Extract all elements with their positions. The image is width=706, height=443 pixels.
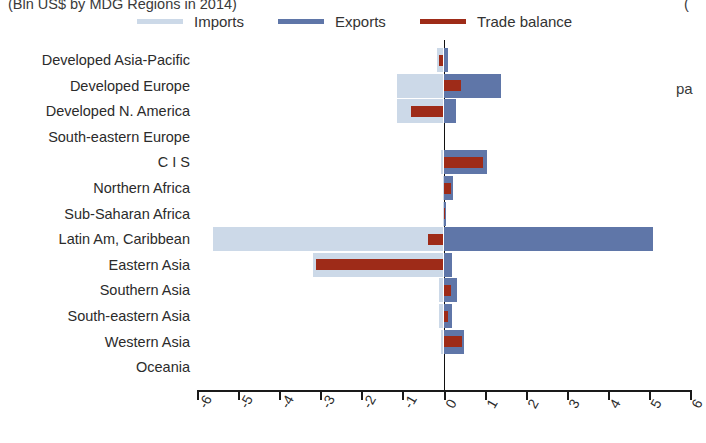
y-axis-label: South-eastern Asia <box>67 309 190 324</box>
plot-area <box>197 46 690 390</box>
x-axis-tick-label: 4 <box>606 396 624 411</box>
bar-trade-balance <box>444 336 462 347</box>
legend-item-imports[interactable]: Imports <box>137 13 244 30</box>
bar-group <box>197 125 690 149</box>
bar-group <box>197 355 690 379</box>
y-axis-label: Sub-Saharan Africa <box>64 207 190 222</box>
bar-trade-balance <box>444 80 461 91</box>
bar-exports <box>444 99 456 123</box>
x-axis-tick-label: 6 <box>688 396 706 411</box>
side-note-fragment: pa <box>676 80 698 97</box>
x-axis-tick-label: -5 <box>236 392 256 411</box>
y-axis-label: Western Asia <box>105 335 190 350</box>
legend-label: Trade balance <box>477 13 572 30</box>
x-axis-tick-label: -2 <box>359 392 379 411</box>
y-axis-label: Eastern Asia <box>109 258 190 273</box>
y-axis-label: Developed Asia-Pacific <box>42 53 190 68</box>
bar-group <box>197 48 690 72</box>
line-swatch-icon <box>137 19 183 24</box>
y-axis-label: South-eastern Europe <box>48 130 190 145</box>
bar-trade-balance <box>428 234 444 245</box>
x-axis-tick-label: 2 <box>524 396 542 411</box>
legend-item-trade-balance[interactable]: Trade balance <box>420 13 572 30</box>
x-axis-tick-label: 3 <box>565 396 583 411</box>
legend-label: Imports <box>194 13 244 30</box>
y-axis-label: Developed N. America <box>46 104 190 119</box>
line-swatch-icon <box>420 19 466 24</box>
bar-group <box>197 202 690 226</box>
bar-trade-balance <box>444 285 451 296</box>
bar-group <box>197 176 690 200</box>
bar-group <box>197 253 690 277</box>
bar-imports <box>397 74 443 98</box>
bar-exports <box>444 48 448 72</box>
bar-trade-balance <box>444 157 483 168</box>
y-axis-category-labels: Developed Asia-PacificDeveloped EuropeDe… <box>0 46 192 390</box>
y-axis-label: Latin Am, Caribbean <box>59 232 190 247</box>
x-axis-tick-label: -3 <box>318 392 338 411</box>
x-axis-tick-label: 0 <box>442 396 460 411</box>
legend-label: Exports <box>335 13 386 30</box>
bar-trade-balance <box>444 208 446 219</box>
bar-group <box>197 304 690 328</box>
x-axis: -6-5-4-3-2-10123456 <box>197 390 690 443</box>
bar-group <box>197 227 690 251</box>
y-axis-label: Oceania <box>136 360 190 375</box>
y-axis-label: Developed Europe <box>70 79 190 94</box>
legend-item-exports[interactable]: Exports <box>278 13 386 30</box>
y-axis-label: Southern Asia <box>100 283 190 298</box>
bar-trade-balance <box>444 183 451 194</box>
bar-group <box>197 330 690 354</box>
bar-group <box>197 99 690 123</box>
bar-imports <box>213 227 444 251</box>
bar-exports <box>444 227 654 251</box>
chart-title: (Bln US$ by MDG Regions in 2014) <box>8 0 237 12</box>
line-swatch-icon <box>278 19 324 24</box>
y-axis-label: Northern Africa <box>93 181 190 196</box>
bar-trade-balance <box>444 311 448 322</box>
x-axis-tick-label: -1 <box>400 392 420 411</box>
x-axis-tick-label: -4 <box>277 392 297 411</box>
bar-exports <box>444 253 452 277</box>
chart-title-right-frag: ( <box>684 0 698 12</box>
bar-group <box>197 278 690 302</box>
bar-trade-balance <box>439 55 443 66</box>
bar-group <box>197 74 690 98</box>
x-axis-tick-label: 1 <box>483 396 501 411</box>
x-axis-tick-label: 5 <box>647 396 665 411</box>
bar-trade-balance <box>411 106 443 117</box>
chart-legend: ImportsExportsTrade balance <box>137 13 606 30</box>
bar-group <box>197 150 690 174</box>
bar-trade-balance <box>316 259 443 270</box>
y-axis-label: C I S <box>158 155 190 170</box>
